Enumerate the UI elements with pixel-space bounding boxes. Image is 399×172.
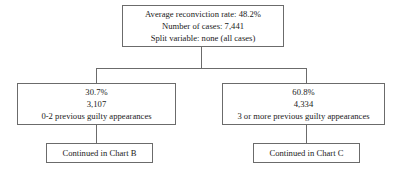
right-branch-node: 60.8% 4,334 3 or more previous guilty ap…	[222, 83, 385, 125]
connector-split-bus	[96, 68, 307, 69]
continuation-node-chart-b: Continued in Chart B	[46, 143, 153, 163]
connector-right-to-continuation	[306, 125, 307, 144]
classification-tree-diagram: Average reconviction rate: 48.2% Number …	[0, 0, 399, 172]
left-branch-group-label: 0-2 previous guilty appearances	[18, 110, 175, 122]
left-branch-node: 30.7% 3,107 0-2 previous guilty appearan…	[17, 83, 176, 125]
root-split-variable: Split variable: none (all cases)	[123, 32, 283, 44]
right-branch-rate: 60.8%	[223, 86, 384, 98]
connector-drop-to-right-branch	[306, 68, 307, 84]
root-number-of-cases: Number of cases: 7,441	[123, 20, 283, 32]
continuation-node-chart-c: Continued in Chart C	[253, 143, 360, 163]
connector-root-stem	[201, 47, 202, 68]
continuation-label-chart-c: Continued in Chart C	[254, 147, 359, 159]
right-branch-cases: 4,334	[223, 98, 384, 110]
right-branch-group-label: 3 or more previous guilty appearances	[223, 110, 384, 122]
connector-left-to-continuation	[96, 125, 97, 144]
left-branch-rate: 30.7%	[18, 86, 175, 98]
continuation-label-chart-b: Continued in Chart B	[47, 147, 152, 159]
connector-drop-to-left-branch	[96, 68, 97, 84]
left-branch-cases: 3,107	[18, 98, 175, 110]
root-average-reconviction-rate: Average reconviction rate: 48.2%	[123, 8, 283, 20]
root-node: Average reconviction rate: 48.2% Number …	[122, 5, 284, 47]
